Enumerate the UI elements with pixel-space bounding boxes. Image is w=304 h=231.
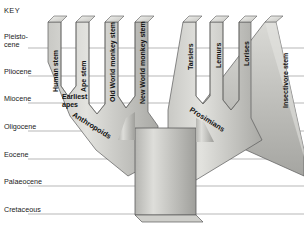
branch-label-lemurs: Lemurs bbox=[215, 43, 222, 68]
branch-label-insectivore-stem: Insectivore stem bbox=[282, 53, 289, 108]
epoch-label-eocene: Eocene bbox=[4, 150, 28, 159]
node-label-earliest-apes-line1: Earliest bbox=[62, 93, 88, 100]
branch-label-tarsiers: Tarsiers bbox=[187, 43, 194, 70]
epoch-label-oligocene: Oligocene bbox=[4, 122, 36, 131]
diagram-canvas: Pleisto- cene Pliocene Miocene Oligocene… bbox=[0, 0, 304, 231]
key-title: KEY bbox=[4, 6, 20, 15]
epoch-label-cretaceous: Cretaceous bbox=[4, 205, 41, 214]
epoch-label-pleistocene-line2: cene bbox=[4, 40, 20, 49]
trunk-base-face bbox=[135, 215, 203, 222]
branch-label-new-world-monkey-stem: New World monkey stem bbox=[139, 21, 147, 104]
epoch-label-miocene: Miocene bbox=[4, 94, 31, 103]
branch-label-old-world-monkey-stem: Old World monkey stem bbox=[109, 22, 117, 102]
tree-trunk bbox=[135, 128, 196, 215]
epoch-label-palaeocene: Palaeocene bbox=[4, 177, 42, 186]
node-label-earliest-apes-line2: apes bbox=[62, 101, 78, 109]
epoch-label-pliocene: Pliocene bbox=[4, 67, 32, 76]
branch-label-lorises: Lorises bbox=[243, 41, 250, 66]
branch-label-ape-stem: Ape stem bbox=[80, 60, 88, 92]
branch-label-human-stem: Human stem bbox=[52, 50, 59, 92]
